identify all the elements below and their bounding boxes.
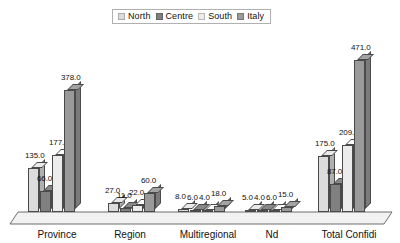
bar-italy-province xyxy=(64,90,75,212)
category-label-total-confidi: Total Confidi xyxy=(299,230,399,240)
bar-front-face xyxy=(281,207,292,212)
bar-front-face xyxy=(342,145,353,212)
bar-centre-nd xyxy=(257,210,268,212)
legend-swatch-centre xyxy=(156,13,163,20)
legend-item-north: North xyxy=(118,12,151,21)
bar-front-face xyxy=(40,191,51,212)
bar-italy-total-confidi xyxy=(354,60,365,212)
bar-value-label: 378.0 xyxy=(61,74,81,82)
legend-label-centre: Centre xyxy=(166,12,194,21)
bar-north-multiregional xyxy=(178,209,189,212)
bar-centre-region xyxy=(120,208,131,212)
bar-front-face xyxy=(178,209,189,212)
bar-value-label: 4.0 xyxy=(254,194,265,202)
bar-value-label: 8.0 xyxy=(175,193,186,201)
bar-value-label: 66.0 xyxy=(37,175,52,183)
bar-front-face xyxy=(245,210,256,212)
bar-front-face xyxy=(318,156,329,212)
bar-front-face xyxy=(190,210,201,212)
bar-value-label: 135.0 xyxy=(25,152,45,160)
legend-swatch-italy xyxy=(237,13,244,20)
bar-front-face xyxy=(52,155,63,212)
legend-label-italy: Italy xyxy=(247,12,264,21)
chart-legend: North Centre South Italy xyxy=(112,9,271,24)
legend-item-south: South xyxy=(198,12,232,21)
bars-layer: 135.066.0177.0378.0Province27.011.022.06… xyxy=(0,28,400,243)
bar-value-label: 22.0 xyxy=(129,189,144,197)
legend-label-south: South xyxy=(208,12,232,21)
bar-south-total-confidi xyxy=(342,145,353,212)
bar-centre-province xyxy=(40,191,51,212)
bar-value-label: 175.0 xyxy=(315,140,335,148)
bar-front-face xyxy=(354,60,365,212)
legend-item-italy: Italy xyxy=(237,12,264,21)
bar-front-face xyxy=(64,90,75,212)
bar-front-face xyxy=(257,210,268,212)
bar-value-label: 6.0 xyxy=(266,194,277,202)
bar-side-face xyxy=(75,81,81,209)
bar-value-label: 6.0 xyxy=(187,194,198,202)
bar-front-face xyxy=(108,203,119,212)
bar-value-label: 18.0 xyxy=(211,190,226,198)
bar-front-face xyxy=(132,205,143,212)
bar-centre-multiregional xyxy=(190,210,201,212)
bar-front-face xyxy=(144,193,155,212)
bar-value-label: 471.0 xyxy=(351,44,371,52)
bar-front-face xyxy=(120,208,131,212)
bar-front-face xyxy=(269,210,280,212)
bar-north-region xyxy=(108,203,119,212)
legend-swatch-south xyxy=(198,13,205,20)
plot-area: 135.066.0177.0378.0Province27.011.022.06… xyxy=(0,28,400,243)
bar-value-label: 4.0 xyxy=(199,194,210,202)
bar-value-label: 60.0 xyxy=(141,177,156,185)
bar-value-label: 5.0 xyxy=(242,194,253,202)
bar-centre-total-confidi xyxy=(330,184,341,212)
bar-front-face xyxy=(330,184,341,212)
bar-south-province xyxy=(52,155,63,212)
bar-front-face xyxy=(202,210,213,212)
bar-italy-region xyxy=(144,193,155,212)
legend-item-centre: Centre xyxy=(156,12,194,21)
bar-side-face xyxy=(365,51,371,209)
bar-italy-nd xyxy=(281,207,292,212)
bar-value-label: 15.0 xyxy=(278,191,293,199)
bar-front-face xyxy=(214,206,225,212)
bar-south-region xyxy=(132,205,143,212)
bar-north-nd xyxy=(245,210,256,212)
legend-label-north: North xyxy=(128,12,151,21)
bar-chart: North Centre South Italy 135.066.0177.03… xyxy=(0,0,400,243)
legend-swatch-north xyxy=(118,13,125,20)
bar-italy-multiregional xyxy=(214,206,225,212)
bar-north-total-confidi xyxy=(318,156,329,212)
bar-south-multiregional xyxy=(202,210,213,212)
bar-south-nd xyxy=(269,210,280,212)
bar-value-label: 87.0 xyxy=(327,168,342,176)
